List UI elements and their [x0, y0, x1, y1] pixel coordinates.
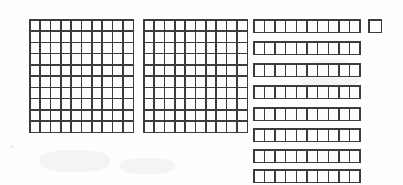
unit-square-cell [265, 65, 274, 76]
unit-square-cell [329, 109, 338, 120]
unit-square-cell [31, 111, 40, 121]
unit-square-cell [82, 43, 91, 53]
unit-square-cell [176, 77, 185, 87]
unit-square-cell [308, 109, 317, 120]
ten-rod[interactable] [253, 85, 361, 99]
hundred-flat[interactable] [143, 19, 248, 133]
unit-square-cell [318, 43, 327, 54]
unit-square-cell [145, 99, 154, 109]
unit-square-cell [227, 122, 236, 132]
unit-square-cell [217, 122, 226, 132]
unit-square-cell [145, 66, 154, 76]
unit-square-cell [155, 111, 164, 121]
unit-square-cell [124, 66, 133, 76]
unit-square-cell [124, 77, 133, 87]
unit-square-cell [186, 111, 195, 121]
unit-square-cell [350, 43, 359, 54]
unit-square-cell [113, 32, 122, 42]
unit-square-cell [31, 66, 40, 76]
unit-square-cell [276, 109, 285, 120]
unit-square-cell [93, 21, 102, 31]
unit-square-cell [62, 54, 71, 64]
unit-square-cell [165, 21, 174, 31]
hundred-flat[interactable] [29, 19, 134, 133]
unit-square-cell [286, 65, 295, 76]
unit-square-cell [329, 21, 338, 32]
unit-square-cell [41, 66, 50, 76]
unit-square-cell [165, 88, 174, 98]
unit-square-cell [297, 21, 306, 32]
unit-square-cell [62, 43, 71, 53]
unit-square-cell [265, 109, 274, 120]
unit-square-cell [145, 111, 154, 121]
ten-rod[interactable] [253, 107, 361, 121]
ten-rod[interactable] [253, 63, 361, 77]
unit-square-cell [186, 122, 195, 132]
unit-square-cell [165, 32, 174, 42]
unit-square-cell [227, 43, 236, 53]
unit-square-cell [103, 111, 112, 121]
unit-square-cell [238, 32, 247, 42]
unit-square-cell [227, 77, 236, 87]
ten-rod[interactable] [253, 41, 361, 55]
unit-square-cell [196, 21, 205, 31]
unit-cube[interactable] [368, 19, 382, 33]
unit-square-cell [82, 77, 91, 87]
unit-square-cell [196, 88, 205, 98]
unit-square-cell [186, 21, 195, 31]
unit-square-cell [51, 21, 60, 31]
unit-square-cell [176, 99, 185, 109]
unit-square-cell [165, 99, 174, 109]
unit-square-cell [31, 32, 40, 42]
unit-square-cell [72, 21, 81, 31]
unit-square-cell [82, 122, 91, 132]
unit-square-cell [72, 99, 81, 109]
unit-square-cell [186, 88, 195, 98]
unit-square-cell [103, 21, 112, 31]
unit-square-cell [318, 151, 327, 162]
unit-square-cell [165, 66, 174, 76]
unit-square-cell [265, 43, 274, 54]
unit-square-cell [41, 54, 50, 64]
unit-square-cell [276, 171, 285, 182]
ten-rod[interactable] [253, 19, 361, 33]
unit-square-cell [31, 21, 40, 31]
unit-square-cell [113, 111, 122, 121]
unit-square-cell [297, 43, 306, 54]
unit-square-cell [124, 88, 133, 98]
ten-rod[interactable] [253, 149, 361, 163]
ten-rod[interactable] [253, 128, 361, 142]
unit-square-cell [329, 43, 338, 54]
unit-square-cell [238, 111, 247, 121]
unit-square-cell [31, 54, 40, 64]
unit-square-cell [350, 151, 359, 162]
unit-square-cell [62, 77, 71, 87]
unit-square-cell [286, 109, 295, 120]
unit-square-cell [41, 88, 50, 98]
unit-square-cell [113, 88, 122, 98]
unit-square-cell [145, 32, 154, 42]
unit-square-cell [155, 99, 164, 109]
unit-square-cell [176, 88, 185, 98]
unit-square-cell [308, 43, 317, 54]
unit-square-cell [93, 32, 102, 42]
unit-square-cell [124, 122, 133, 132]
unit-square-cell [308, 130, 317, 141]
unit-square-cell [217, 32, 226, 42]
unit-square-cell [217, 21, 226, 31]
unit-square-cell [113, 77, 122, 87]
unit-square-cell [255, 151, 264, 162]
unit-square-cell [286, 21, 295, 32]
unit-square-cell [276, 21, 285, 32]
unit-square-cell [124, 111, 133, 121]
unit-square-cell [207, 111, 216, 121]
unit-square-cell [276, 43, 285, 54]
unit-square-cell [255, 109, 264, 120]
unit-square-cell [41, 32, 50, 42]
unit-square-cell [103, 32, 112, 42]
unit-square-cell [72, 54, 81, 64]
unit-square-cell [41, 77, 50, 87]
unit-square-cell [340, 43, 349, 54]
ten-rod[interactable] [253, 169, 361, 183]
unit-square-cell [186, 77, 195, 87]
